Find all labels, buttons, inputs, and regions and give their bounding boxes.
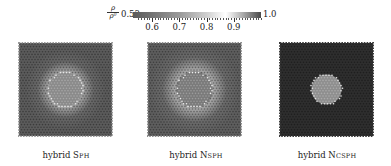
colorbar-minor-tick	[223, 18, 224, 20]
colorbar-minor-tick	[160, 18, 161, 20]
colorbar-minor-tick	[212, 18, 213, 20]
caption-method: NCSPH	[328, 152, 356, 160]
colorbar-minor-tick	[141, 18, 142, 20]
colorbar-minor-tick	[190, 18, 191, 20]
colorbar-tick-label: 0.9	[227, 22, 241, 32]
caption-prefix: hybrid	[169, 150, 200, 160]
colorbar-minor-tick	[256, 18, 257, 20]
colorbar-minor-tick	[228, 18, 229, 20]
particle-field	[279, 42, 374, 139]
caption-hybrid-nsph: hybrid NSPH	[169, 150, 222, 160]
colorbar-minor-tick	[204, 18, 205, 20]
caption-method: SPH	[73, 152, 89, 160]
colorbar-tick-label: 0.6	[145, 22, 159, 32]
panel-hybrid-sph	[18, 42, 113, 139]
colorbar-major-tick	[179, 18, 180, 22]
colorbar-minor-tick	[155, 18, 156, 20]
caption-method: NSPH	[200, 152, 223, 160]
colorbar-minor-tick	[231, 18, 232, 20]
colorbar-minor-tick	[174, 18, 175, 20]
colorbar-minor-tick	[187, 18, 188, 20]
colorbar-minor-tick	[226, 18, 227, 20]
colorbar-major-tick	[234, 18, 235, 22]
colorbar-major-tick	[152, 18, 153, 22]
colorbar-minor-tick	[245, 18, 246, 20]
colorbar-major-tick	[207, 18, 208, 22]
colorbar-minor-tick	[215, 18, 216, 20]
colorbar-minor-tick	[198, 18, 199, 20]
colorbar-minor-tick	[163, 18, 164, 20]
colorbar-minor-tick	[261, 18, 262, 20]
particle-field	[18, 42, 113, 139]
colorbar-minor-tick	[138, 18, 139, 20]
inclusion	[312, 75, 342, 105]
colorbar-minor-tick	[236, 18, 237, 20]
colorbar-minor-tick	[166, 18, 167, 20]
colorbar-label-denominator: ρ⁰	[107, 13, 119, 20]
caption-prefix: hybrid	[42, 150, 73, 160]
colorbar-minor-tick	[185, 18, 186, 20]
panel-hybrid-nsph	[147, 42, 242, 139]
colorbar: ρ ρ⁰ 0.53 1.0 0.60.70.80.9	[0, 0, 391, 40]
colorbar-minor-tick	[158, 18, 159, 20]
colorbar-minor-tick	[168, 18, 169, 20]
colorbar-minor-tick	[239, 18, 240, 20]
colorbar-minor-tick	[171, 18, 172, 20]
colorbar-minor-tick	[149, 18, 150, 20]
colorbar-minor-tick	[147, 18, 148, 20]
colorbar-minor-tick	[193, 18, 194, 20]
colorbar-minor-tick	[250, 18, 251, 20]
colorbar-label: ρ ρ⁰	[107, 5, 119, 20]
colorbar-minor-tick	[247, 18, 248, 20]
colorbar-minor-tick	[209, 18, 210, 20]
colorbar-tick-label: 0.8	[200, 22, 214, 32]
colorbar-minor-tick	[196, 18, 197, 20]
colorbar-minor-tick	[242, 18, 243, 20]
colorbar-minor-tick	[144, 18, 145, 20]
colorbar-minor-tick	[177, 18, 178, 20]
colorbar-tick-label: 0.7	[173, 22, 187, 32]
caption-hybrid-ncsph: hybrid NCSPH	[298, 150, 357, 160]
caption-hybrid-sph: hybrid SPH	[42, 150, 89, 160]
particle-field	[147, 42, 242, 139]
caption-prefix: hybrid	[298, 150, 329, 160]
colorbar-max-label: 1.0	[263, 9, 277, 19]
colorbar-minor-tick	[182, 18, 183, 20]
colorbar-minor-tick	[258, 18, 259, 20]
colorbar-minor-tick	[201, 18, 202, 20]
panel-hybrid-ncsph	[279, 42, 374, 139]
colorbar-minor-tick	[253, 18, 254, 20]
colorbar-minor-tick	[217, 18, 218, 20]
colorbar-minor-tick	[220, 18, 221, 20]
